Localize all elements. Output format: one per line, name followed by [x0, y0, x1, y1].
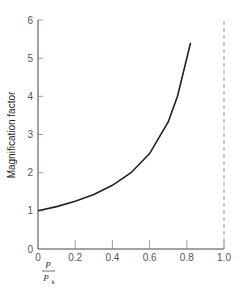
y-tick-label: 0 — [27, 244, 33, 255]
x-tick-label: 0 — [35, 252, 41, 263]
x-axis: 00.20.40.60.81.0 — [35, 240, 231, 263]
x-tick-label: 1.0 — [217, 252, 231, 263]
y-tick-label: 4 — [27, 91, 33, 102]
y-axis: 0123456 — [27, 15, 43, 255]
x-tick-label: 0.6 — [143, 252, 157, 263]
svg-text:P: P — [44, 260, 51, 270]
y-tick-label: 3 — [27, 129, 33, 140]
x-tick-label: 0.8 — [180, 252, 194, 263]
magnification-curve — [38, 43, 191, 211]
y-tick-label: 6 — [27, 15, 33, 26]
svg-text:k: k — [51, 278, 55, 286]
y-axis-title: Magnification factor — [6, 91, 17, 178]
y-tick-label: 2 — [27, 167, 33, 178]
x-tick-label: 0.2 — [68, 252, 82, 263]
svg-text:P: P — [42, 273, 49, 283]
chart: 0123456 00.20.40.60.81.0 Magnification f… — [0, 0, 245, 301]
y-tick-label: 5 — [27, 53, 33, 64]
x-tick-label: 0.4 — [105, 252, 119, 263]
x-axis-title: P P k — [42, 260, 55, 286]
y-tick-label: 1 — [27, 205, 33, 216]
